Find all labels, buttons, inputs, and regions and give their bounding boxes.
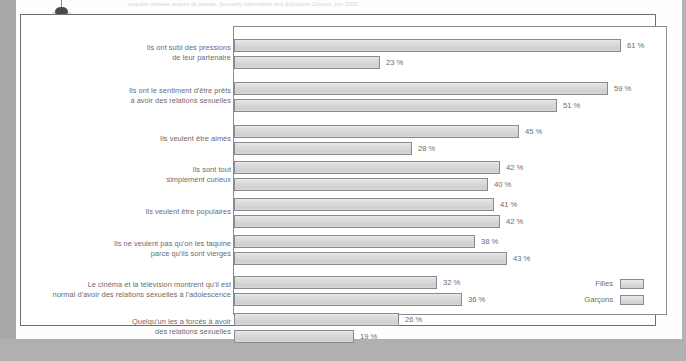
category-label: Ils ont le sentiment d'être prêts à avoi…: [0, 86, 231, 105]
legend-swatch: [620, 295, 644, 305]
bar-value-label: 42 %: [506, 162, 523, 173]
category-label: Ils sont tout simplement curieux: [0, 165, 231, 184]
bar-value-label: 36 %: [468, 294, 485, 305]
bar-garçons: [234, 142, 412, 155]
bar-garçons: [234, 215, 500, 228]
legend-item-filles: Filles: [561, 278, 657, 290]
bar-row: 23 %: [234, 56, 420, 69]
bar-filles: [234, 276, 437, 289]
category-label: Le cinéma et la télévision montrent qu'i…: [0, 280, 231, 299]
bar-filles: [234, 313, 399, 326]
bar-value-label: 38 %: [481, 236, 498, 247]
bar-garçons: [234, 178, 488, 191]
thumbtack-head: [55, 7, 68, 14]
bar-value-label: 41 %: [500, 199, 517, 210]
bar-value-label: 51 %: [563, 100, 580, 111]
bar-row: 45 %: [234, 125, 559, 138]
bar-value-label: 61 %: [627, 40, 644, 51]
category-label: Ils ne veulent pas qu'on les taquine par…: [0, 239, 231, 258]
bar-garçons: [234, 330, 354, 343]
category-label: Ils veulent être populaires: [0, 207, 231, 217]
bar-value-label: 23 %: [386, 57, 403, 68]
bar-row: 43 %: [234, 252, 547, 265]
legend-swatch: [620, 279, 644, 289]
bar-value-label: 40 %: [494, 179, 511, 190]
figure-page: enquête réalisée auprès de jeunes, Sexua…: [0, 0, 686, 361]
bar-row: 42 %: [234, 215, 540, 228]
bar-garçons: [234, 56, 380, 69]
bar-garçons: [234, 252, 507, 265]
bar-row: 51 %: [234, 99, 597, 112]
bar-value-label: 32 %: [443, 277, 460, 288]
bar-value-label: 42 %: [506, 216, 523, 227]
bar-filles: [234, 82, 608, 95]
legend-label: Filles: [561, 278, 613, 290]
category-label: Quelqu'un les a forcés à avoir des relat…: [0, 317, 231, 336]
bar-filles: [234, 125, 519, 138]
bar-row: 28 %: [234, 142, 452, 155]
bar-row: 32 %: [234, 276, 477, 289]
bar-value-label: 45 %: [525, 126, 542, 137]
bar-filles: [234, 235, 475, 248]
bar-row: 36 %: [234, 293, 502, 306]
figure-frame: Ils ont subi des pressions de leur parte…: [20, 14, 656, 326]
bar-value-label: 28 %: [418, 143, 435, 154]
bar-value-label: 43 %: [513, 253, 530, 264]
bar-row: 42 %: [234, 161, 540, 174]
page-margin-right: [682, 0, 686, 361]
bar-row: 19 %: [234, 330, 394, 343]
category-label: Ils ont subi des pressions de leur parte…: [0, 43, 231, 62]
bar-filles: [234, 198, 494, 211]
bar-value-label: 26 %: [405, 314, 422, 325]
bar-row: 41 %: [234, 198, 534, 211]
bar-filles: [234, 161, 500, 174]
bar-garçons: [234, 99, 557, 112]
bar-value-label: 19 %: [360, 331, 377, 342]
bar-row: 40 %: [234, 178, 528, 191]
bar-value-label: 59 %: [614, 83, 631, 94]
bar-row: 26 %: [234, 313, 439, 326]
bar-filles: [234, 39, 621, 52]
bar-row: 59 %: [234, 82, 648, 95]
bar-row: 38 %: [234, 235, 515, 248]
legend-label: Garçons: [561, 294, 613, 306]
bar-garçons: [234, 293, 462, 306]
figure-caption: enquête réalisée auprès de jeunes, Sexua…: [128, 1, 458, 8]
legend-item-garçons: Garçons: [561, 294, 657, 306]
category-label: Ils veulent être aimés: [0, 134, 231, 144]
bar-row: 61 %: [234, 39, 661, 52]
